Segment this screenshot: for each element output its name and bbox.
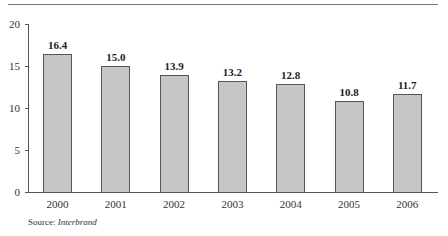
bar-2006 [393, 94, 422, 192]
source-name: Interbrand [58, 217, 97, 227]
y-tick [25, 24, 28, 25]
x-tick-label: 2004 [271, 198, 311, 210]
x-tick-label: 2006 [387, 198, 427, 210]
y-tick-label: 15 [0, 60, 20, 72]
bar-value-label: 10.8 [329, 86, 369, 98]
bar-value-label: 13.2 [212, 66, 252, 78]
source-prefix: Source: [28, 217, 56, 227]
bar-2003 [218, 81, 247, 192]
bar-2000 [43, 54, 72, 192]
bar-value-label: 12.8 [271, 69, 311, 81]
y-tick [25, 150, 28, 151]
y-tick-label: 10 [0, 102, 20, 114]
x-tick-label: 2005 [329, 198, 369, 210]
y-tick [25, 66, 28, 67]
x-tick-label: 2002 [154, 198, 194, 210]
y-tick [25, 192, 28, 193]
bar-value-label: 11.7 [387, 79, 427, 91]
top-rule [8, 4, 438, 5]
y-tick-label: 0 [0, 186, 20, 198]
y-tick-label: 5 [0, 144, 20, 156]
bar-value-label: 13.9 [154, 60, 194, 72]
bar-2004 [276, 84, 305, 192]
x-tick-label: 2001 [96, 198, 136, 210]
x-tick-label: 2003 [212, 198, 252, 210]
y-tick-label: 20 [0, 18, 20, 30]
x-tick-label: 2000 [38, 198, 78, 210]
y-tick [25, 108, 28, 109]
bar-value-label: 16.4 [38, 39, 78, 51]
x-axis [28, 192, 438, 193]
source-note: Source: Interbrand [28, 217, 97, 227]
bar-2002 [160, 75, 189, 192]
bar-2001 [101, 66, 130, 192]
bar-2005 [335, 101, 364, 192]
y-axis [28, 24, 29, 192]
bar-value-label: 15.0 [96, 51, 136, 63]
